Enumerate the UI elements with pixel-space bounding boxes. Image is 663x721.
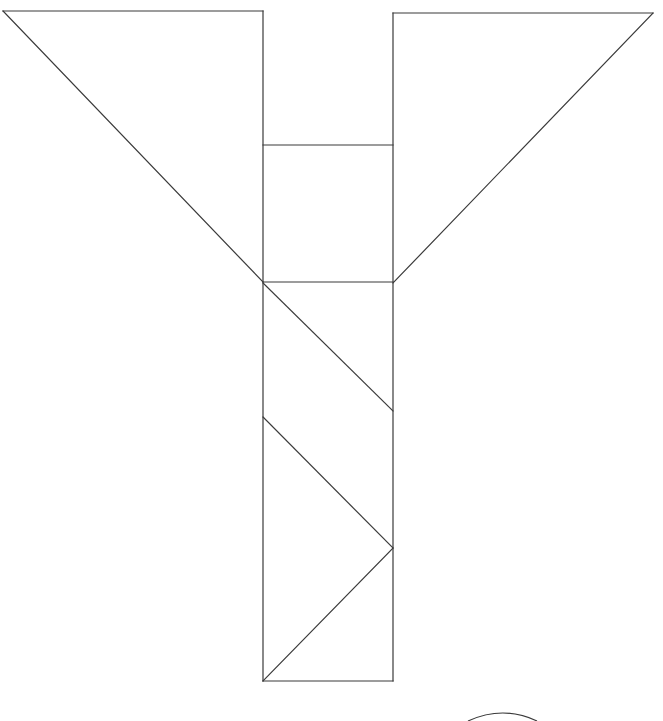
line-figure	[0, 0, 663, 721]
canvas-background	[0, 0, 663, 721]
figure-canvas	[0, 0, 663, 721]
